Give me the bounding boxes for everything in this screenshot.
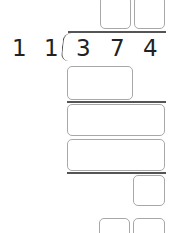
dividend-digit-2: 7 bbox=[110, 37, 125, 60]
division-bar bbox=[68, 31, 166, 33]
subtraction-line-1 bbox=[67, 101, 166, 103]
subtraction-line-2 bbox=[67, 172, 166, 174]
quotient-box-2[interactable] bbox=[134, 0, 165, 29]
check-box-1[interactable] bbox=[99, 218, 130, 233]
divisor-digit-1: 1 bbox=[12, 37, 27, 60]
step2-product-box[interactable] bbox=[67, 139, 165, 171]
step1-difference-box[interactable] bbox=[67, 104, 165, 136]
remainder-box[interactable] bbox=[133, 175, 165, 206]
divisor-digit-2: 1 bbox=[44, 37, 59, 60]
step1-product-box[interactable] bbox=[67, 66, 133, 100]
division-bracket bbox=[61, 33, 75, 61]
dividend-digit-1: 3 bbox=[76, 37, 91, 60]
dividend-digit-3: 4 bbox=[143, 37, 158, 60]
check-box-2[interactable] bbox=[133, 218, 165, 233]
quotient-box-1[interactable] bbox=[100, 0, 131, 29]
